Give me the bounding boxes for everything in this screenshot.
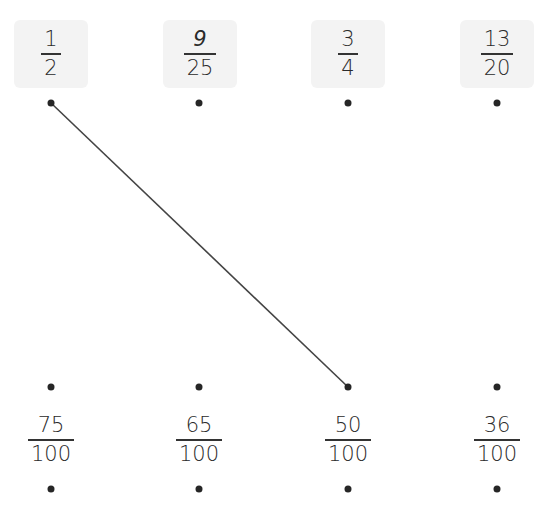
denominator: 100: [474, 444, 520, 465]
fraction-bar: [338, 53, 357, 55]
top-card-4[interactable]: 13 20: [460, 20, 534, 88]
bottom-item-4[interactable]: 36 100: [457, 415, 537, 465]
fraction-9-25: 9 25: [184, 29, 217, 79]
bottom-dot-upper-2[interactable]: [196, 384, 203, 391]
top-card-2[interactable]: 9 25: [163, 20, 237, 88]
bottom-dot-lower-2[interactable]: [196, 486, 203, 493]
bottom-item-1[interactable]: 75 100: [11, 415, 91, 465]
denominator: 4: [338, 58, 357, 79]
bottom-item-3[interactable]: 50 100: [308, 415, 388, 465]
numerator: 9: [190, 29, 209, 50]
denominator: 20: [481, 58, 514, 79]
denominator: 100: [176, 444, 222, 465]
numerator: 3: [338, 29, 357, 50]
bottom-dot-upper-3[interactable]: [345, 384, 352, 391]
numerator: 1: [41, 29, 60, 50]
numerator: 65: [183, 415, 216, 436]
fraction-bar: [481, 53, 514, 55]
fraction-36-100: 36 100: [474, 415, 520, 465]
bottom-dot-lower-3[interactable]: [345, 486, 352, 493]
fraction-75-100: 75 100: [28, 415, 74, 465]
fraction-13-20: 13 20: [481, 29, 514, 79]
bottom-dot-upper-1[interactable]: [48, 384, 55, 391]
top-dot-1[interactable]: [48, 100, 55, 107]
denominator: 2: [41, 58, 60, 79]
fraction-bar: [325, 439, 371, 441]
top-card-1[interactable]: 1 2: [14, 20, 88, 88]
top-dot-2[interactable]: [196, 100, 203, 107]
fraction-bar: [41, 53, 60, 55]
fraction-bar: [474, 439, 520, 441]
denominator: 100: [28, 444, 74, 465]
numerator: 36: [481, 415, 514, 436]
bottom-item-2[interactable]: 65 100: [159, 415, 239, 465]
bottom-dot-lower-1[interactable]: [48, 486, 55, 493]
fraction-50-100: 50 100: [325, 415, 371, 465]
numerator: 75: [35, 415, 68, 436]
top-dot-3[interactable]: [345, 100, 352, 107]
top-dot-4[interactable]: [494, 100, 501, 107]
denominator: 100: [325, 444, 371, 465]
fraction-bar: [176, 439, 222, 441]
fraction-3-4: 3 4: [338, 29, 357, 79]
top-card-3[interactable]: 3 4: [311, 20, 385, 88]
fraction-65-100: 65 100: [176, 415, 222, 465]
bottom-dot-upper-4[interactable]: [494, 384, 501, 391]
fraction-bar: [184, 53, 217, 55]
numerator: 50: [332, 415, 365, 436]
bottom-dot-lower-4[interactable]: [494, 486, 501, 493]
fraction-bar: [28, 439, 74, 441]
connection-line-1-2-to-50-100: [51, 103, 348, 387]
denominator: 25: [184, 58, 217, 79]
fraction-1-2: 1 2: [41, 29, 60, 79]
numerator: 13: [481, 29, 514, 50]
